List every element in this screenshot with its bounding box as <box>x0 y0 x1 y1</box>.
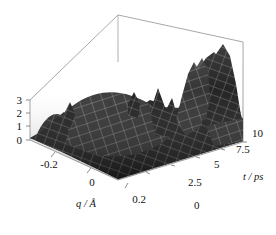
y-axis-label: t / ps <box>243 171 263 182</box>
z-tick-0: 0 <box>17 134 23 146</box>
y-tick-0: 0 <box>194 199 200 211</box>
y-tick-25: 2.5 <box>188 176 202 188</box>
surface-plot-figure: 3 2 1 0 -0.2 0 0.2 q / Å 10 7.5 5 2.5 0 … <box>0 0 276 235</box>
x-tick-0: 0 <box>89 176 95 188</box>
z-tick-3: 3 <box>17 94 23 106</box>
z-tick-2: 2 <box>17 107 23 119</box>
plot-canvas: 3 2 1 0 -0.2 0 0.2 q / Å 10 7.5 5 2.5 0 … <box>0 0 276 235</box>
x-axis-label: q / Å <box>76 198 96 209</box>
y-tick-75: 7.5 <box>236 143 250 155</box>
x-tick-neg02: -0.2 <box>40 158 57 170</box>
surface-mesh <box>30 15 243 180</box>
z-tick-1: 1 <box>17 120 23 132</box>
x-tick-02: 0.2 <box>132 193 146 205</box>
y-tick-10: 10 <box>252 127 264 139</box>
z-axis <box>26 100 30 140</box>
y-tick-5: 5 <box>214 158 220 170</box>
